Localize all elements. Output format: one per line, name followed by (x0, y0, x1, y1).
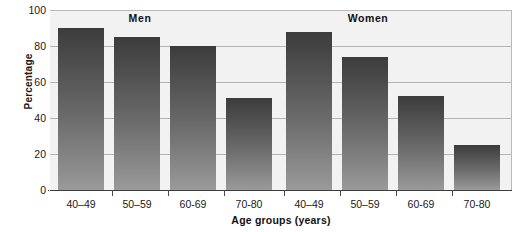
bar-women-70-80 (454, 145, 500, 190)
group-label-women: Women (286, 12, 450, 24)
bar-men-40-49 (58, 28, 104, 190)
x-tick-label-men-70-80: 70-80 (226, 198, 272, 210)
x-tickmark-7 (452, 191, 453, 196)
x-tickmark-4 (284, 191, 285, 196)
x-tick-label-women-50-59: 50–59 (342, 198, 388, 210)
y-axis-tick-labels: 100 80 60 40 20 0 (14, 0, 46, 232)
y-tick-label-60: 60 (20, 77, 46, 87)
x-tick-label-women-70-80: 70-80 (454, 198, 500, 210)
y-tick-label-20: 20 (20, 149, 46, 159)
x-tick-label-men-50-59: 50–59 (114, 198, 160, 210)
y-tick-label-100: 100 (20, 5, 46, 15)
bar-men-70-80 (226, 98, 272, 190)
x-tickmark-3 (224, 191, 225, 196)
x-tickmark-2 (168, 191, 169, 196)
x-axis-title: Age groups (years) (50, 214, 512, 226)
bar-women-60-69 (398, 96, 444, 190)
bar-men-60-69 (170, 46, 216, 190)
bar-men-50-59 (114, 37, 160, 190)
x-tick-label-women-40-49: 40–49 (286, 198, 332, 210)
bar-women-50-59 (342, 57, 388, 190)
y-axis-line (49, 10, 50, 191)
group-label-men: Men (58, 12, 222, 24)
x-tickmark-6 (396, 191, 397, 196)
bar-women-40-49 (286, 32, 332, 190)
x-axis-line (48, 190, 512, 191)
y-tick-label-40: 40 (20, 113, 46, 123)
y-tick-label-80: 80 (20, 41, 46, 51)
x-tick-label-men-60-69: 60-69 (170, 198, 216, 210)
y-tick-label-0: 0 (20, 185, 46, 195)
plot-area (50, 10, 512, 190)
bar-chart-figure: Percentage 100 80 60 40 20 0 Men (0, 0, 520, 232)
x-tick-label-men-40-49: 40–49 (58, 198, 104, 210)
x-tickmark-5 (340, 191, 341, 196)
x-tickmark-1 (112, 191, 113, 196)
x-tick-label-women-60-69: 60-69 (398, 198, 444, 210)
